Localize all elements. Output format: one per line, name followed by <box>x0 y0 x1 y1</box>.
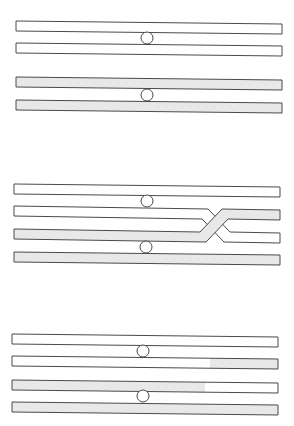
chromatid-white-recombinant <box>12 356 278 369</box>
chromatid-white-2 <box>16 43 282 56</box>
centromere-icon <box>137 345 149 357</box>
gray-homolog <box>12 380 278 415</box>
chromatid-gray-2 <box>16 100 282 113</box>
crossing-over-diagram <box>0 0 294 426</box>
chromatid-gray-outer <box>14 252 280 265</box>
white-homolog <box>16 21 282 56</box>
centromere-icon <box>141 89 153 101</box>
stage-3-recombinant-chromatids <box>12 334 278 415</box>
centromere-icon <box>141 32 153 44</box>
stage-1-homologous-pairs <box>16 21 282 113</box>
stage-2-synapsis-crossing-over <box>14 184 280 265</box>
centromere-icon <box>137 390 149 402</box>
white-homolog <box>12 334 278 369</box>
gray-homolog <box>16 77 282 113</box>
chromatid-gray-1 <box>16 77 282 90</box>
centromere-icon <box>141 195 153 207</box>
chromatid-gray-parental <box>12 402 278 415</box>
centromere-icon <box>140 241 152 253</box>
